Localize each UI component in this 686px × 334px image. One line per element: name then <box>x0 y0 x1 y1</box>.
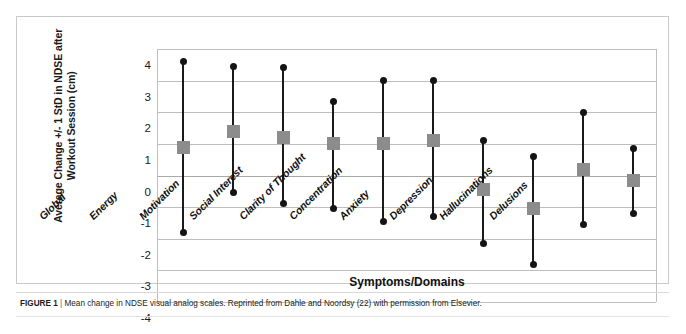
error-bar-upper-cap <box>480 137 487 144</box>
mean-marker <box>277 131 290 144</box>
error-bar-lower-cap <box>230 189 237 196</box>
y-tick-label: 0 <box>125 186 151 198</box>
error-bar-upper-cap <box>230 63 237 70</box>
error-bar-lower-cap <box>630 210 637 217</box>
error-bar-upper-cap <box>580 109 587 116</box>
mean-marker <box>627 174 640 187</box>
caption-divider-bottom <box>16 316 669 317</box>
mean-marker <box>227 125 240 138</box>
error-bar-line <box>382 81 384 222</box>
y-axis-tick-labels: 43210-1-2-3-4 <box>125 33 151 302</box>
error-bar-upper-cap <box>430 77 437 84</box>
y-tick-label: -3 <box>125 280 151 292</box>
x-axis-category-label: Energy <box>87 189 120 222</box>
error-bar-line <box>332 101 334 209</box>
figure-container: Average Change +/- 1 StD in NDSE after W… <box>0 0 686 334</box>
y-tick-label: -4 <box>125 312 151 324</box>
gridline--2 <box>158 239 656 240</box>
mean-marker <box>527 202 540 215</box>
error-bar-upper-cap <box>180 58 187 65</box>
gridline-4 <box>158 49 656 50</box>
error-bar-lower-cap <box>530 261 537 268</box>
mean-marker <box>177 141 190 154</box>
x-axis-title: Symptoms/Domains <box>157 275 657 289</box>
error-bar-lower-cap <box>430 213 437 220</box>
figure-caption-text: Mean change in NDSE visual analog scales… <box>64 299 481 308</box>
error-bar-lower-cap <box>480 240 487 247</box>
figure-caption-separator: | <box>60 299 62 308</box>
figure-caption: FIGURE 1 | Mean change in NDSE visual an… <box>20 299 670 310</box>
mean-marker <box>327 137 340 150</box>
error-bar-lower-cap <box>580 221 587 228</box>
y-tick-label: 4 <box>125 59 151 71</box>
mean-marker <box>577 163 590 176</box>
figure-caption-label: FIGURE 1 <box>20 299 58 308</box>
y-tick-label: 3 <box>125 91 151 103</box>
error-bar-lower-cap <box>280 200 287 207</box>
error-bar-upper-cap <box>280 64 287 71</box>
mean-marker <box>377 137 390 150</box>
error-bar-upper-cap <box>530 153 537 160</box>
y-tick-label: -2 <box>125 249 151 261</box>
error-bar-lower-cap <box>380 218 387 225</box>
error-bar-upper-cap <box>630 145 637 152</box>
error-bar-lower-cap <box>180 229 187 236</box>
error-bar-lower-cap <box>330 205 337 212</box>
chart-frame: Average Change +/- 1 StD in NDSE after W… <box>16 16 669 284</box>
y-tick-label: 2 <box>125 122 151 134</box>
mean-marker <box>427 134 440 147</box>
error-bar-upper-cap <box>330 98 337 105</box>
gridline--3 <box>158 270 656 271</box>
y-tick-label: 1 <box>125 154 151 166</box>
error-bar-line <box>432 81 434 217</box>
error-bar-upper-cap <box>380 77 387 84</box>
caption-divider-top <box>16 292 669 293</box>
